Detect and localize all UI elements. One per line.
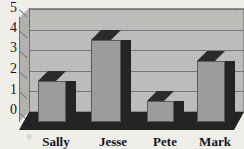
x-axis-label-pete: Pete [142, 134, 188, 149]
bar-pete-front [147, 101, 174, 122]
bar-mark-side [225, 61, 235, 122]
y-axis-tick-5: 5 [0, 1, 17, 15]
chart-image: 0 1 2 3 4 5 [0, 0, 244, 149]
gridline-3 [29, 50, 244, 51]
plot-left-wall [19, 8, 29, 122]
y-axis-tick-1: 1 [0, 83, 17, 97]
bar-sally [38, 81, 66, 122]
bar-mark-front [197, 61, 225, 122]
bar-sally-front [38, 81, 66, 122]
y-axis-tick-3: 3 [0, 41, 17, 55]
x-axis-label-jesse: Jesse [86, 134, 140, 149]
x-axis-label-sally: Sally [30, 134, 82, 149]
y-axis-line-front [19, 17, 20, 122]
bar-mark [197, 61, 225, 122]
y-axis-line-back [29, 8, 30, 112]
bar-pete [147, 101, 174, 122]
x-axis-label-mark: Mark [190, 134, 240, 149]
bar-jesse [91, 40, 121, 122]
y-axis-tick-2: 2 [0, 62, 17, 76]
gridline-5 [29, 9, 244, 10]
y-axis-tick-0: 0 [0, 103, 17, 117]
y-axis-tick-4: 4 [0, 21, 17, 35]
bar-jesse-front [91, 40, 121, 122]
plot-area [19, 8, 244, 130]
gridline-4 [29, 30, 244, 31]
bar-jesse-side [121, 40, 131, 122]
